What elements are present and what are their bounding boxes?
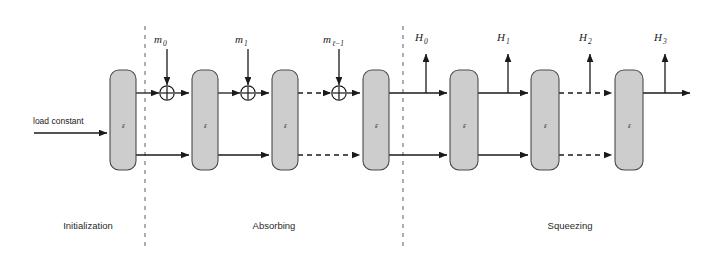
message-label-m0-base: m [154,33,162,45]
hash-label-H3: H 3 [653,31,667,46]
message-label-ml-base: m [323,33,331,45]
sponge-construction-diagram: load constant [0,0,727,268]
permutation-box-p5[interactable]: ᵋ [450,70,478,170]
hash-label-H2: H 2 [578,31,592,46]
message-label-ml-sub: ℓ−1 [332,39,344,48]
permutation-box-p3[interactable]: ᵋ [272,70,298,170]
hash-label-H2-base: H [578,31,588,43]
hash-label-H1-sub: 1 [506,37,510,46]
hash-label-H3-base: H [653,31,663,43]
sponge-diagram-canvas: load constant [0,0,727,268]
message-label-ml: m ℓ−1 [323,33,344,48]
xor-gate-ml [332,86,346,100]
permutation-box-p1[interactable]: ᵋ [110,70,136,170]
hash-label-H3-sub: 3 [662,37,667,46]
permutation-box-p7[interactable]: ᵋ [615,70,643,170]
message-label-m1-base: m [235,33,243,45]
message-label-m0: m 0 [154,33,167,48]
message-label-m1: m 1 [235,33,248,48]
hash-label-H0-sub: 0 [424,37,428,46]
load-constant-label: load constant [33,116,84,126]
hash-label-H0: H 0 [414,31,428,46]
message-label-m0-sub: 0 [163,39,167,48]
permutation-box-p2[interactable]: ᵋ [192,70,218,170]
hash-label-H0-base: H [414,31,424,43]
phase-label-initialization: Initialization [63,220,113,231]
message-label-m1-sub: 1 [244,39,248,48]
hash-label-H1-base: H [496,31,506,43]
hash-label-H2-sub: 2 [588,37,592,46]
xor-gate-m0 [160,86,174,100]
hash-label-H1: H 1 [496,31,510,46]
phase-label-squeezing: Squeezing [548,220,593,231]
phase-label-absorbing: Absorbing [253,220,296,231]
permutation-box-p4[interactable]: ᵋ [363,70,389,170]
xor-gate-m1 [241,86,255,100]
permutation-box-p6[interactable]: ᵋ [531,70,559,170]
